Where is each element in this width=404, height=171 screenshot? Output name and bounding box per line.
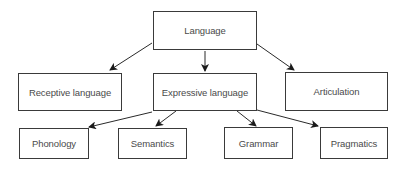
node-pragmatics: Pragmatics <box>320 127 388 159</box>
node-label: Pragmatics <box>331 138 378 149</box>
arrow-expressive-to-grammar <box>237 111 256 126</box>
node-receptive: Receptive language <box>18 73 122 111</box>
node-label: Grammar <box>239 138 278 149</box>
node-semantics: Semantics <box>118 128 187 159</box>
arrow-expressive-to-phonology <box>89 112 152 127</box>
node-articulation: Articulation <box>285 72 388 111</box>
arrow-expressive-to-semantics <box>156 111 176 126</box>
node-label: Language <box>184 25 225 36</box>
node-grammar: Grammar <box>224 127 293 159</box>
arrow-expressive-to-pragmatics <box>257 110 318 126</box>
node-language: Language <box>153 11 257 50</box>
node-phonology: Phonology <box>19 128 89 159</box>
arrow-language-to-receptive <box>110 43 152 70</box>
arrow-language-to-articulation <box>257 44 294 70</box>
node-label: Semantics <box>131 138 174 149</box>
node-label: Receptive language <box>29 87 111 98</box>
node-label: Expressive language <box>162 87 248 98</box>
node-label: Articulation <box>314 86 360 97</box>
node-expressive: Expressive language <box>153 73 257 111</box>
node-label: Phonology <box>32 138 76 149</box>
